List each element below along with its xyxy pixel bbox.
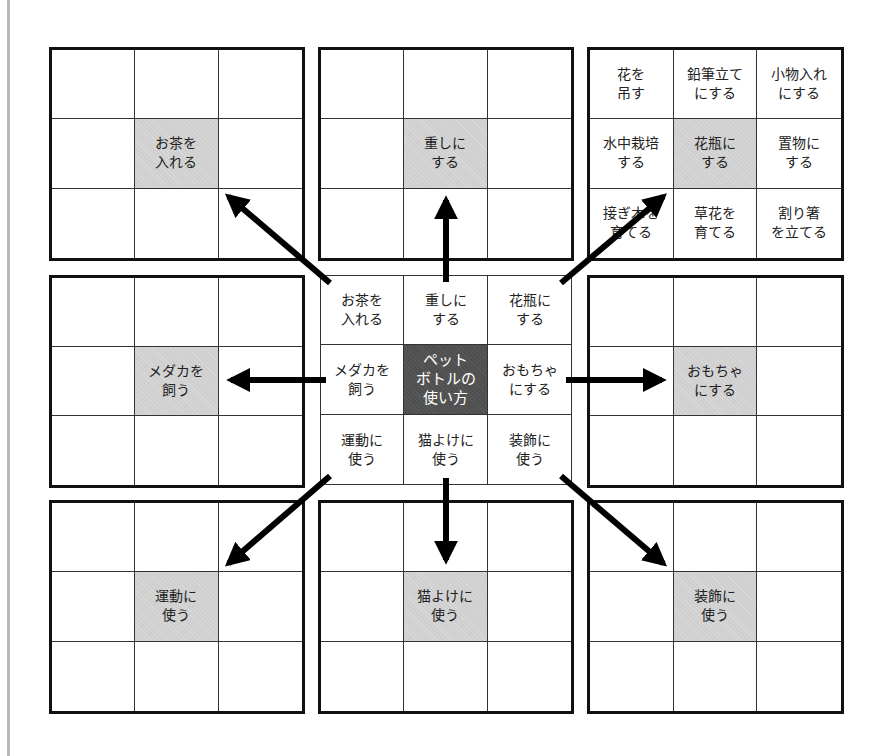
cell — [219, 642, 302, 711]
cell — [52, 642, 135, 711]
cell — [590, 278, 674, 347]
cell — [404, 642, 487, 711]
cell — [321, 503, 404, 572]
theme-cell: 運動に 使う — [135, 572, 218, 641]
cell — [52, 50, 135, 119]
grid-bottom-center: 猫よけに 使う — [318, 500, 574, 714]
cell — [219, 572, 302, 641]
cell — [52, 572, 135, 641]
theme-cell: お茶を 入れる — [135, 119, 218, 188]
cell — [757, 278, 841, 347]
center-theme-cell: 運動に 使う — [320, 415, 404, 485]
cell — [219, 503, 302, 572]
cell — [674, 278, 758, 347]
cell — [488, 50, 571, 119]
center-theme-cell: 花瓶に する — [488, 275, 572, 345]
grid-top-center: 重しに する — [318, 47, 574, 261]
theme-cell: 装飾に 使う — [674, 572, 758, 641]
grid-middle-left: メダカを 飼う — [49, 275, 305, 488]
cell — [219, 119, 302, 188]
cell — [321, 572, 404, 641]
grid-top-left: お茶を 入れる — [49, 47, 305, 261]
cell — [674, 503, 758, 572]
theme-cell: 花瓶に する — [674, 119, 758, 188]
cell — [488, 189, 571, 258]
grid-top-right: 花を 吊す 鉛筆立て にする 小物入れ にする 水中栽培 する 花瓶に する 置… — [587, 47, 844, 261]
grid-bottom-left: 運動に 使う — [49, 500, 305, 714]
cell — [488, 503, 571, 572]
cell — [590, 503, 674, 572]
cell — [488, 642, 571, 711]
theme-cell: メダカを 飼う — [135, 347, 218, 416]
idea-cell: 花を 吊す — [590, 50, 674, 119]
cell — [219, 416, 302, 485]
cell — [135, 278, 218, 347]
cell — [488, 572, 571, 641]
idea-cell: 小物入れ にする — [757, 50, 841, 119]
idea-cell: 接ぎ木を 育てる — [590, 189, 674, 258]
left-margin-rule — [7, 0, 10, 756]
cell — [590, 416, 674, 485]
cell — [135, 503, 218, 572]
cell — [590, 642, 674, 711]
cell — [321, 189, 404, 258]
cell — [321, 50, 404, 119]
cell — [321, 119, 404, 188]
cell — [590, 347, 674, 416]
theme-cell: 重しに する — [404, 119, 487, 188]
cell — [135, 50, 218, 119]
idea-cell: 割り箸 を立てる — [757, 189, 841, 258]
center-theme-cell: おもちゃ にする — [488, 345, 572, 415]
idea-cell: 草花を 育てる — [674, 189, 758, 258]
cell — [135, 189, 218, 258]
cell — [674, 642, 758, 711]
cell — [757, 503, 841, 572]
cell — [52, 347, 135, 416]
cell — [52, 278, 135, 347]
idea-cell: 水中栽培 する — [590, 119, 674, 188]
idea-cell: 置物に する — [757, 119, 841, 188]
cell — [219, 278, 302, 347]
cell — [757, 642, 841, 711]
center-theme-cell: お茶を 入れる — [320, 275, 404, 345]
cell — [757, 347, 841, 416]
cell — [219, 189, 302, 258]
cell — [404, 50, 487, 119]
idea-cell: 鉛筆立て にする — [674, 50, 758, 119]
grid-middle-right: おもちゃ にする — [587, 275, 844, 488]
cell — [52, 416, 135, 485]
theme-cell: 猫よけに 使う — [404, 572, 487, 641]
cell — [404, 503, 487, 572]
cell — [757, 416, 841, 485]
grid-center: お茶を 入れる 重しに する 花瓶に する メダカを 飼う ペット ボトルの 使… — [320, 275, 572, 485]
center-theme-cell: 猫よけに 使う — [404, 415, 488, 485]
cell — [488, 119, 571, 188]
cell — [674, 416, 758, 485]
cell — [757, 572, 841, 641]
core-theme-cell: ペット ボトルの 使い方 — [404, 345, 488, 415]
center-theme-cell: 重しに する — [404, 275, 488, 345]
cell — [135, 642, 218, 711]
cell — [52, 119, 135, 188]
grid-bottom-right: 装飾に 使う — [587, 500, 844, 714]
center-theme-cell: 装飾に 使う — [488, 415, 572, 485]
cell — [321, 642, 404, 711]
theme-cell: おもちゃ にする — [674, 347, 758, 416]
cell — [590, 572, 674, 641]
cell — [219, 50, 302, 119]
cell — [52, 189, 135, 258]
cell — [219, 347, 302, 416]
cell — [404, 189, 487, 258]
cell — [135, 416, 218, 485]
cell — [52, 503, 135, 572]
center-theme-cell: メダカを 飼う — [320, 345, 404, 415]
